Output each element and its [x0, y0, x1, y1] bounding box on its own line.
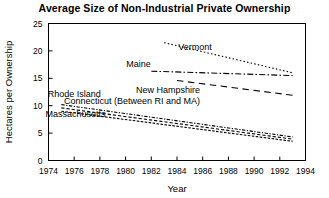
x-tick-label: 1982 — [142, 166, 161, 176]
x-axis-title: Year — [167, 183, 186, 194]
series-label-connecticut-between-ri-and-ma: Connecticut (Between RI and MA) — [64, 96, 200, 106]
series-label-new-hampshire: New Hampshire — [136, 85, 200, 95]
y-tick-label: 25 — [33, 19, 43, 29]
y-axis-tick-labels: 0510152025 — [33, 19, 43, 166]
x-tick-label: 1992 — [270, 166, 289, 176]
series-label-maine: Maine — [126, 59, 151, 69]
x-tick-label: 1974 — [39, 166, 58, 176]
series-label-vermont: Vermont — [178, 42, 212, 52]
x-tick-label: 1986 — [193, 166, 212, 176]
chart-container: Average Size of Non-Industrial Private O… — [0, 0, 329, 198]
x-tick-label: 1976 — [65, 166, 84, 176]
y-tick-label: 10 — [33, 101, 43, 111]
y-tick-label: 20 — [33, 46, 43, 56]
y-tick-label: 5 — [38, 128, 43, 138]
y-tick-label: 15 — [33, 73, 43, 83]
y-tick-label: 0 — [38, 156, 43, 166]
x-tick-label: 1988 — [219, 166, 238, 176]
x-tick-label: 1978 — [90, 166, 109, 176]
chart-plot-area: 0510152025 19741976197819801982198419861… — [0, 0, 329, 198]
x-tick-label: 1984 — [168, 166, 187, 176]
x-axis-ticks — [49, 157, 306, 161]
x-tick-label: 1980 — [116, 166, 135, 176]
x-axis-tick-labels: 1974197619781980198219841986198819901992… — [39, 166, 315, 176]
x-tick-label: 1990 — [245, 166, 264, 176]
y-axis-title: Hectares per Ownership — [3, 41, 14, 143]
series-line-maine — [151, 71, 292, 75]
x-tick-label: 1994 — [296, 166, 315, 176]
series-label-massachusetts: Massachusetts — [45, 109, 106, 119]
data-series-labels: VermontMaineNew HampshireRhode IslandCon… — [45, 42, 212, 119]
